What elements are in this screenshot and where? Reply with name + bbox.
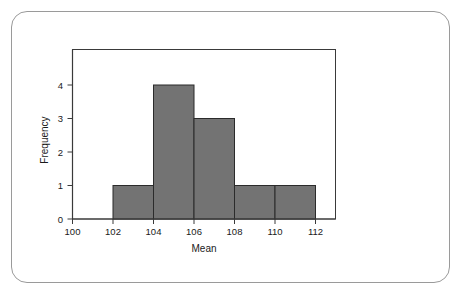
y-tick-marks [68, 85, 73, 219]
y-tick-label-3: 3 [58, 113, 63, 124]
bar-108-110 [235, 186, 276, 220]
bar-106-108 [194, 119, 235, 220]
y-tick-label-2: 2 [58, 147, 63, 158]
x-tick-label-112: 112 [308, 226, 323, 237]
screenshot-root: 100 102 104 106 108 110 112 0 1 2 3 4 Me… [0, 0, 464, 298]
x-axis-title: Mean [191, 243, 216, 254]
histogram-plot: 100 102 104 106 108 110 112 0 1 2 3 4 Me… [0, 0, 464, 298]
x-tick-marks [73, 219, 316, 224]
bar-110-112 [275, 186, 316, 220]
x-tick-label-108: 108 [227, 226, 243, 237]
y-tick-label-4: 4 [58, 80, 63, 91]
x-tick-label-104: 104 [146, 226, 162, 237]
y-axis-title: Frequency [39, 116, 50, 163]
x-tick-label-110: 110 [267, 226, 282, 237]
histogram-figure: 100 102 104 106 108 110 112 0 1 2 3 4 Me… [0, 0, 464, 298]
x-tick-label-106: 106 [186, 226, 202, 237]
x-tick-label-100: 100 [65, 226, 81, 237]
bar-104-106 [154, 85, 195, 219]
y-tick-label-1: 1 [58, 180, 63, 191]
y-tick-label-0: 0 [58, 214, 63, 225]
bar-102-104 [113, 186, 154, 220]
x-tick-label-102: 102 [105, 226, 121, 237]
